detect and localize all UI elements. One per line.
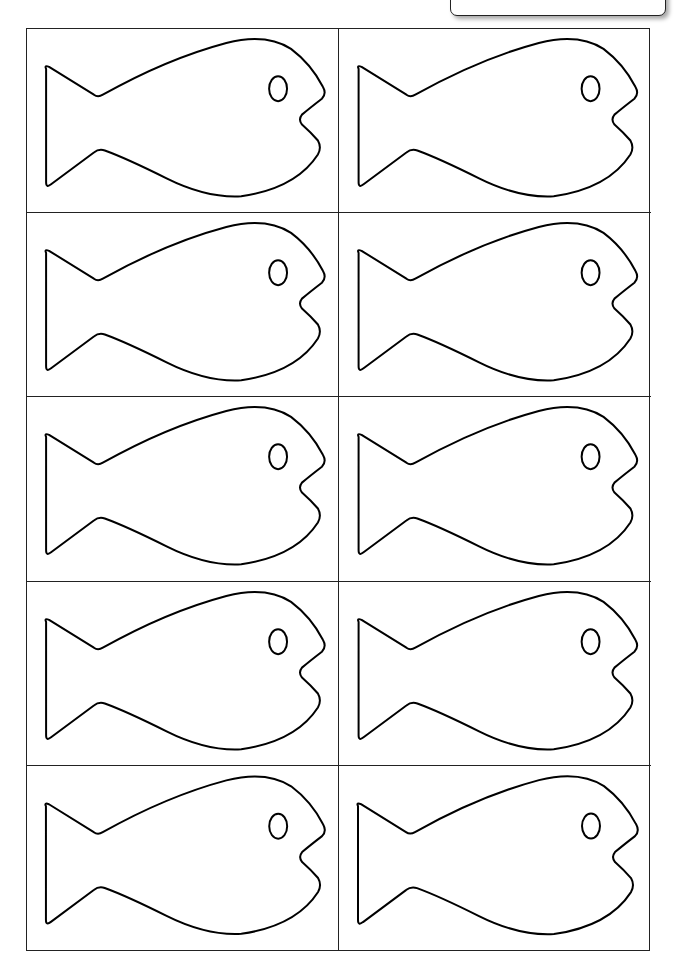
grid-cell xyxy=(339,766,651,950)
sheet-label-text: GENERIC SHEET 5 xyxy=(455,0,662,1)
fish-outline-icon xyxy=(339,213,651,396)
sheet-label: GENERIC SHEET 5 xyxy=(450,0,666,16)
fish-outline-icon xyxy=(339,397,651,580)
fish-outline-icon xyxy=(27,582,338,765)
grid-cell xyxy=(339,29,651,213)
fish-outline-icon xyxy=(27,766,338,950)
fish-grid xyxy=(26,28,650,951)
fish-outline-icon xyxy=(339,582,651,765)
fish-outline-icon xyxy=(339,766,651,950)
fish-outline-icon xyxy=(27,397,338,580)
fish-outline-icon xyxy=(27,29,338,212)
grid-cell xyxy=(339,213,651,397)
fish-outline-icon xyxy=(27,213,338,396)
fish-outline-icon xyxy=(339,29,651,212)
grid-cell xyxy=(27,397,339,581)
grid-cell xyxy=(27,582,339,766)
grid-cell xyxy=(27,29,339,213)
grid-cell xyxy=(27,766,339,950)
grid-cell xyxy=(339,397,651,581)
grid-cell xyxy=(27,213,339,397)
grid-cell xyxy=(339,582,651,766)
